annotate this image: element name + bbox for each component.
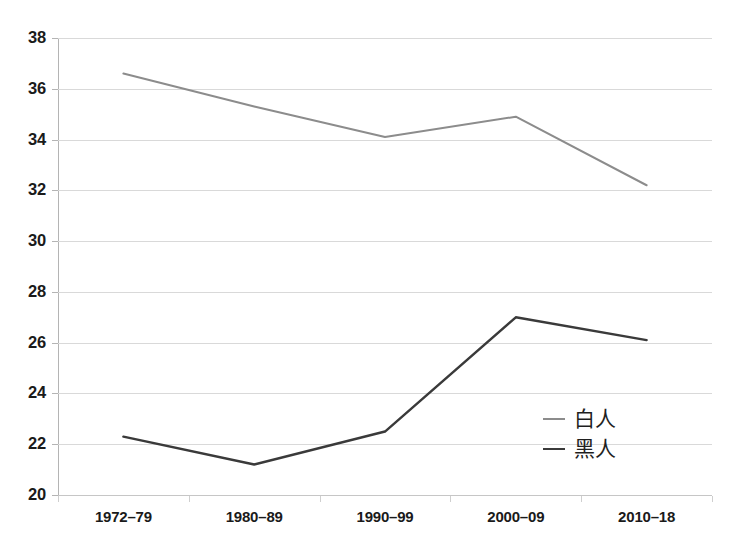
legend-line-swatch [543,418,565,420]
chart-legend: 白人黑人 [543,404,663,464]
series-line [123,74,646,186]
legend-line-swatch [543,448,565,450]
series-layer [0,0,729,554]
legend-item-label: 白人 [574,409,616,430]
legend-item-label: 黑人 [574,439,616,460]
chart-container: 38363432302826242220 1972–791980–891990–… [0,0,729,554]
legend-item[interactable]: 黑人 [543,434,663,464]
legend-item[interactable]: 白人 [543,404,663,434]
